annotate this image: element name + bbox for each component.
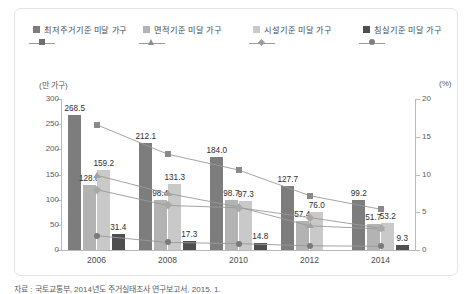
x-tick-label: 2008 <box>138 255 198 265</box>
y-tick-label-left: 50 <box>19 221 59 229</box>
x-tick-label: 2014 <box>351 255 411 265</box>
line-marker-1-1 <box>164 190 172 196</box>
legend-swatch-icon <box>363 26 370 33</box>
line-series-group <box>61 99 416 251</box>
line-marker-3-1 <box>165 239 171 245</box>
y-tick-label-left: 250 <box>19 120 59 128</box>
y-tick-label-left: 100 <box>19 196 59 204</box>
y-tick-label-left: 300 <box>19 95 59 103</box>
line-marker-0-2 <box>236 167 242 173</box>
legend-swatch-icon <box>143 26 150 33</box>
y-tick-label-right: 20 <box>422 95 452 103</box>
line-marker-0-0 <box>94 122 100 128</box>
line-marker-3-2 <box>236 241 242 247</box>
y-tick-label-right: 5 <box>422 208 452 216</box>
y-tick-right <box>416 175 420 176</box>
x-tick-label: 2012 <box>280 255 340 265</box>
legend-swatch-icon <box>33 26 40 33</box>
legend-line-sample-3 <box>359 38 385 48</box>
y-tick-label-left: 150 <box>19 171 59 179</box>
y-tick-label-right: 10 <box>422 171 452 179</box>
figure-caption: 자료 : 국토교통부, 2014년도 주거실태조사 연구보고서, 2015. 1… <box>14 283 314 294</box>
y-tick-right <box>416 250 420 251</box>
y-tick-label-right: 0 <box>422 246 452 254</box>
line-overlay <box>61 99 416 251</box>
y-tick-right <box>416 212 420 213</box>
chart-legend: 최저주거기준 미달 가구면적기준 미달 가구시설기준 미달 가구침실기준 미달 … <box>15 23 457 53</box>
legend-marker-icon <box>369 39 375 45</box>
legend-item-1[interactable]: 면적기준 미달 가구 <box>143 23 222 35</box>
legend-marker-icon <box>148 39 154 45</box>
legend-label: 최저주거기준 미달 가구 <box>44 23 127 35</box>
legend-marker-icon <box>258 38 265 45</box>
y-tick-label-left: 200 <box>19 145 59 153</box>
left-axis-caption: (만 가구) <box>39 79 68 90</box>
x-tick-label: 2010 <box>209 255 269 265</box>
line-marker-0-1 <box>165 151 171 157</box>
line-marker-0-4 <box>378 206 384 212</box>
line-marker-3-4 <box>378 243 384 249</box>
legend-label: 시설기준 미달 가구 <box>264 23 332 35</box>
legend-item-2[interactable]: 시설기준 미달 가구 <box>253 23 332 35</box>
y-tick-label-right: 15 <box>422 133 452 141</box>
line-marker-3-0 <box>94 233 100 239</box>
line-marker-1-0 <box>93 172 101 178</box>
x-tick-label: 2006 <box>67 255 127 265</box>
chart-figure: 최저주거기준 미달 가구면적기준 미달 가구시설기준 미달 가구침실기준 미달 … <box>14 8 458 276</box>
plot-area: 050100150200250300 05101520 200620082010… <box>61 99 416 251</box>
line-marker-1-3 <box>306 222 314 228</box>
legend-line-sample-2 <box>249 38 275 48</box>
legend-swatch-icon <box>253 26 260 33</box>
y-tick-label-left: 0 <box>19 246 59 254</box>
legend-label: 침실기준 미달 가구 <box>374 23 442 35</box>
legend-line-sample-1 <box>139 38 165 48</box>
legend-item-3[interactable]: 침실기준 미달 가구 <box>363 23 442 35</box>
legend-marker-icon <box>39 39 45 45</box>
right-axis-caption: (%) <box>439 79 451 88</box>
line-marker-3-3 <box>307 243 313 249</box>
y-tick-right <box>416 99 420 100</box>
y-tick-right <box>416 137 420 138</box>
line-marker-0-3 <box>307 193 313 199</box>
legend-line-sample-0 <box>29 38 55 48</box>
line-path-1 <box>97 175 381 229</box>
legend-label: 면적기준 미달 가구 <box>154 23 222 35</box>
legend-item-0[interactable]: 최저주거기준 미달 가구 <box>33 23 127 35</box>
